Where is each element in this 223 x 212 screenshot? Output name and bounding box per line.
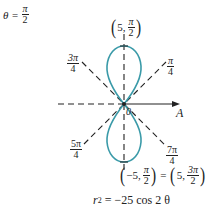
label-pi-over-4: π 4 — [167, 50, 174, 77]
label-3pi-over-4: 3π 4 — [67, 47, 79, 74]
polar-axis-label: A — [176, 106, 183, 121]
label-5pi-over-4: 5π 4 — [70, 133, 82, 160]
equation: r2 = −25 cos 2 θ — [93, 193, 170, 208]
fraction: π 2 — [22, 4, 29, 25]
lower-loop — [107, 104, 141, 162]
point-bottom-label: ( −5, π 2 ) = ( 5, 3π 2 ) — [119, 164, 206, 186]
theta-lhs: θ = — [3, 9, 19, 21]
theta-pi-over-2-label: θ = π 2 — [3, 4, 29, 25]
fraction: π 2 — [128, 17, 135, 38]
pole-label: 0 — [126, 106, 131, 117]
point-top-label: ( 5, π 2 ) — [110, 16, 142, 38]
